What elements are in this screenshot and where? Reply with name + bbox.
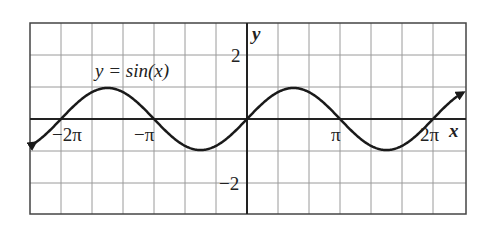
x-tick-neg2pi: −2π <box>52 124 82 145</box>
x-tick-negpi: −π <box>134 124 155 145</box>
x-axis-label: x <box>448 120 459 141</box>
x-tick-2pi: 2π <box>420 124 440 145</box>
x-tick-pi: π <box>331 124 341 145</box>
y-axis-label: y <box>250 23 261 44</box>
sine-chart: y = sin(x) y x 2 −2 −2π −π π 2π <box>0 0 482 229</box>
y-tick-2: 2 <box>231 45 241 66</box>
function-label: y = sin(x) <box>93 60 169 82</box>
y-tick-neg2: −2 <box>219 173 239 194</box>
